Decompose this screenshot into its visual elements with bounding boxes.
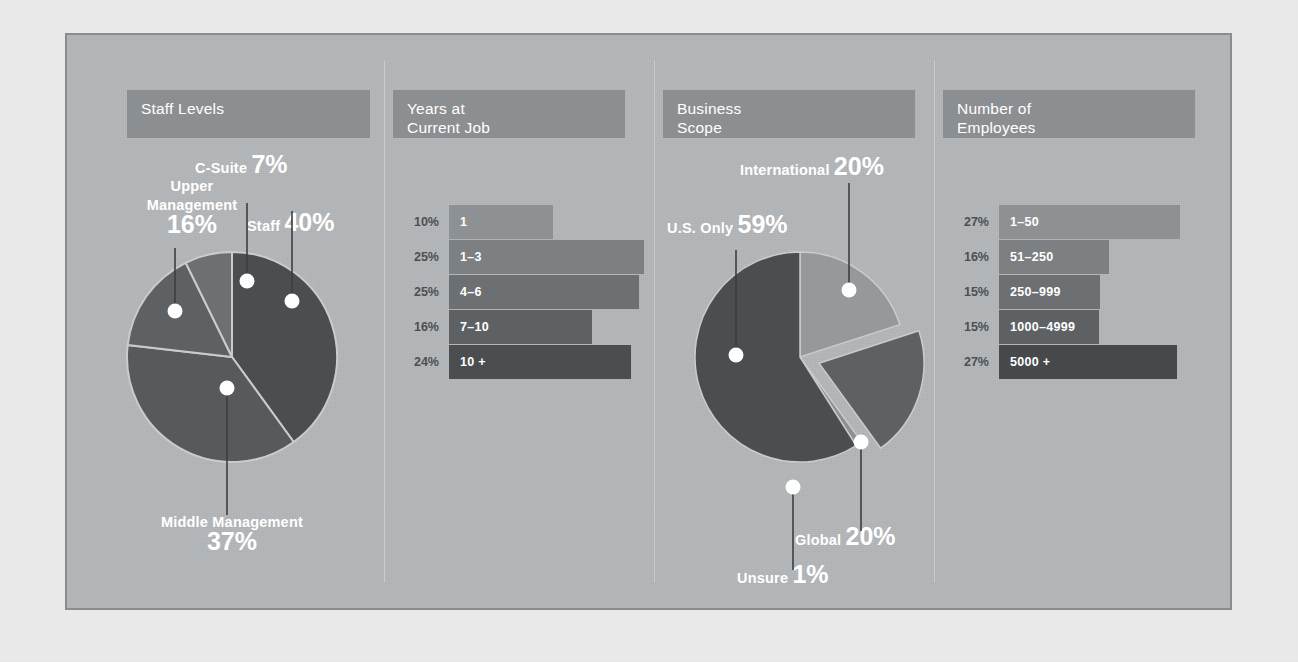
bar-row: 10% 1 bbox=[393, 205, 663, 239]
panel-business-scope: Business Scope International 20% U.S. On… bbox=[655, 35, 935, 608]
bar-fill: 1–3 bbox=[449, 240, 644, 274]
bar-track: 1000–4999 bbox=[999, 310, 1099, 344]
chart-years-at-current-job-bars: 10% 1 25% 1–3 25% bbox=[393, 205, 663, 380]
bar-category-label: 5000 + bbox=[999, 355, 1050, 369]
bar-percent: 15% bbox=[943, 320, 989, 334]
pie-dot-global bbox=[854, 435, 869, 450]
bar-fill: 7–10 bbox=[449, 310, 592, 344]
bar-percent: 27% bbox=[943, 215, 989, 229]
bar-row: 27% 5000 + bbox=[943, 345, 1242, 379]
chart-business-scope-pie bbox=[655, 35, 935, 595]
bar-category-label: 4–6 bbox=[449, 285, 482, 299]
chart-staff-levels-pie bbox=[67, 35, 385, 595]
bar-row: 15% 250–999 bbox=[943, 275, 1242, 309]
panel-header-years-at-current-job: Years at Current Job bbox=[393, 90, 625, 138]
chart-number-of-employees-bars: 27% 1–50 16% 51–250 15% bbox=[943, 205, 1242, 380]
bar-row: 25% 1–3 bbox=[393, 240, 663, 274]
pie-slices-staff bbox=[127, 252, 337, 462]
bar-row: 24% 10 + bbox=[393, 345, 663, 379]
bar-percent: 25% bbox=[393, 250, 439, 264]
bar-track: 1 bbox=[449, 205, 553, 239]
bar-fill: 4–6 bbox=[449, 275, 639, 309]
bar-row: 16% 7–10 bbox=[393, 310, 663, 344]
panel-staff-levels: Staff Levels C-Suite 7% Upper Management… bbox=[67, 35, 385, 608]
bar-fill: 1–50 bbox=[999, 205, 1180, 239]
panel-header-number-of-employees: Number of Employees bbox=[943, 90, 1195, 138]
bar-percent: 24% bbox=[393, 355, 439, 369]
pie-dot-us-only bbox=[729, 348, 744, 363]
bar-category-label: 10 + bbox=[449, 355, 486, 369]
pie-dot-upper-management bbox=[168, 304, 183, 319]
bar-track: 4–6 bbox=[449, 275, 639, 309]
bar-track: 1–50 bbox=[999, 205, 1180, 239]
bar-track: 250–999 bbox=[999, 275, 1100, 309]
pie-dot-international bbox=[842, 283, 857, 298]
bar-percent: 16% bbox=[393, 320, 439, 334]
bar-row: 16% 51–250 bbox=[943, 240, 1242, 274]
pie-dot-unsure bbox=[786, 480, 801, 495]
bar-percent: 16% bbox=[943, 250, 989, 264]
bar-row: 15% 1000–4999 bbox=[943, 310, 1242, 344]
bar-fill: 1 bbox=[449, 205, 553, 239]
bar-track: 10 + bbox=[449, 345, 631, 379]
pie-dot-c-suite bbox=[240, 274, 255, 289]
bar-track: 5000 + bbox=[999, 345, 1177, 379]
bar-category-label: 250–999 bbox=[999, 285, 1061, 299]
bar-track: 7–10 bbox=[449, 310, 592, 344]
bar-percent: 15% bbox=[943, 285, 989, 299]
bar-category-label: 1 bbox=[449, 215, 467, 229]
bar-fill: 1000–4999 bbox=[999, 310, 1099, 344]
bar-fill: 5000 + bbox=[999, 345, 1177, 379]
bar-fill: 250–999 bbox=[999, 275, 1100, 309]
bar-row: 25% 4–6 bbox=[393, 275, 663, 309]
bar-fill: 51–250 bbox=[999, 240, 1109, 274]
bar-track: 1–3 bbox=[449, 240, 644, 274]
bar-track: 51–250 bbox=[999, 240, 1109, 274]
panel-title-line1: Number of bbox=[957, 100, 1031, 117]
panel-years-at-current-job: Years at Current Job 10% 1 25% 1–3 bbox=[385, 35, 655, 608]
panel-number-of-employees: Number of Employees 27% 1–50 16% 51–250 bbox=[935, 35, 1234, 608]
bar-fill: 10 + bbox=[449, 345, 631, 379]
bar-category-label: 7–10 bbox=[449, 320, 489, 334]
bar-row: 27% 1–50 bbox=[943, 205, 1242, 239]
bar-percent: 25% bbox=[393, 285, 439, 299]
pie-dot-middle-management bbox=[220, 381, 235, 396]
bar-category-label: 1–50 bbox=[999, 215, 1039, 229]
panel-title-line2: Current Job bbox=[407, 118, 625, 137]
panel-title-line1: Years at bbox=[407, 100, 465, 117]
bar-category-label: 1000–4999 bbox=[999, 320, 1075, 334]
bar-category-label: 1–3 bbox=[449, 250, 482, 264]
bar-category-label: 51–250 bbox=[999, 250, 1054, 264]
bar-percent: 10% bbox=[393, 215, 439, 229]
pie-dot-staff bbox=[285, 294, 300, 309]
panel-title-line2: Employees bbox=[957, 118, 1195, 137]
bar-percent: 27% bbox=[943, 355, 989, 369]
infographic-board: Staff Levels C-Suite 7% Upper Management… bbox=[65, 33, 1232, 610]
